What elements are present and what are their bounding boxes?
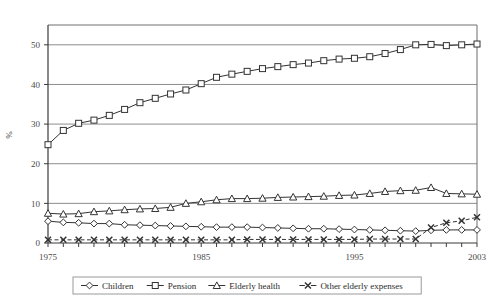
data-point-s1-i6: [137, 100, 143, 106]
data-point-s1-i7: [152, 95, 158, 101]
data-point-s1-i13: [244, 68, 250, 74]
y-tick-label-10: 10: [31, 199, 41, 209]
data-point-s0-i5: [121, 221, 128, 228]
data-point-s0-i10: [198, 223, 205, 230]
data-point-s1-i0: [45, 142, 51, 148]
y-tick-label-20: 20: [31, 159, 41, 169]
x-tick-label-1985: 1985: [192, 252, 211, 262]
data-point-s1-i21: [367, 54, 373, 60]
data-point-s0-i19: [336, 226, 343, 233]
data-point-s1-i16: [290, 62, 296, 68]
chart-figure: 01020304050%1975198519952003ChildrenPens…: [0, 0, 495, 305]
y-tick-label-50: 50: [31, 40, 41, 50]
data-point-s0-i8: [167, 223, 174, 230]
legend-label-2: Elderly health: [229, 281, 280, 291]
data-point-s0-i13: [244, 224, 251, 231]
legend-label-0: Children: [102, 281, 134, 291]
data-point-s1-i24: [413, 42, 419, 48]
data-point-s0-i7: [152, 222, 159, 229]
data-point-s1-i22: [382, 51, 388, 57]
data-point-s1-i11: [214, 74, 220, 80]
data-point-s1-i28: [474, 41, 480, 47]
data-point-s1-i4: [106, 112, 112, 118]
legend-label-3: Other elderly expenses: [320, 281, 403, 291]
data-point-s0-i20: [351, 226, 358, 233]
data-point-s0-i9: [182, 223, 189, 230]
data-point-s1-i2: [76, 120, 82, 126]
data-point-s1-i19: [336, 56, 342, 62]
data-point-s0-i24: [412, 228, 419, 235]
series-line-1: [48, 44, 477, 145]
data-point-s1-i5: [122, 106, 128, 112]
legend-label-1: Pension: [168, 281, 197, 291]
data-point-s1-i23: [397, 47, 403, 53]
data-point-s0-i17: [305, 225, 312, 232]
data-point-s1-i9: [183, 87, 189, 93]
x-tick-label-2003: 2003: [468, 252, 487, 262]
data-point-s0-i22: [382, 227, 389, 234]
data-point-s1-i25: [428, 41, 434, 47]
chart-canvas: 01020304050%1975198519952003ChildrenPens…: [0, 0, 495, 305]
data-point-s1-i3: [91, 117, 97, 123]
data-point-s0-i2: [75, 219, 82, 226]
y-tick-label-40: 40: [31, 80, 41, 90]
y-axis-title: %: [4, 131, 14, 139]
data-point-s0-i6: [137, 222, 144, 229]
data-point-s0-i21: [366, 227, 373, 234]
data-point-s0-i1: [60, 219, 67, 226]
data-point-s0-i16: [290, 225, 297, 232]
data-point-s0-i23: [397, 227, 404, 234]
data-point-s1-i17: [305, 60, 311, 66]
data-point-s1-i27: [459, 42, 465, 48]
data-point-s0-i4: [106, 220, 113, 227]
data-point-s2-i25: [427, 184, 434, 191]
data-point-s0-i12: [228, 224, 235, 231]
data-point-s1-i20: [351, 55, 357, 61]
data-point-s0-i26: [443, 227, 450, 234]
x-tick-label-1995: 1995: [345, 252, 364, 262]
data-point-s0-i14: [259, 224, 266, 231]
data-point-s0-i15: [274, 225, 281, 232]
x-tick-label-1975: 1975: [39, 252, 58, 262]
data-point-s1-i15: [275, 64, 281, 70]
data-point-s1-i1: [60, 127, 66, 133]
data-point-s0-i0: [45, 218, 52, 225]
data-point-s1-i14: [260, 66, 266, 72]
data-point-s1-i26: [443, 43, 449, 49]
y-tick-label-30: 30: [31, 119, 41, 129]
data-point-s0-i11: [213, 224, 220, 231]
legend-marker-square-icon: [152, 283, 158, 289]
data-point-s0-i3: [91, 220, 98, 227]
data-point-s0-i27: [458, 227, 465, 234]
data-point-s1-i18: [321, 58, 327, 64]
data-point-s0-i28: [474, 227, 481, 234]
data-point-s1-i10: [198, 81, 204, 87]
data-point-s1-i8: [168, 91, 174, 97]
y-tick-label-0: 0: [36, 238, 41, 248]
data-point-s1-i12: [229, 71, 235, 77]
data-point-s0-i18: [320, 225, 327, 232]
